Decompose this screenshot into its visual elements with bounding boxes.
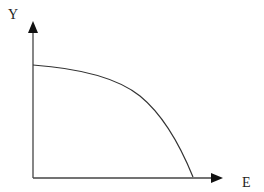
x-axis-label: E <box>242 175 251 190</box>
y-axis-arrowhead-icon <box>28 21 38 33</box>
curve <box>33 65 193 177</box>
diagram-canvas: Y E <box>0 0 264 192</box>
y-axis-label: Y <box>8 7 18 22</box>
x-axis-arrowhead-icon <box>211 173 223 183</box>
